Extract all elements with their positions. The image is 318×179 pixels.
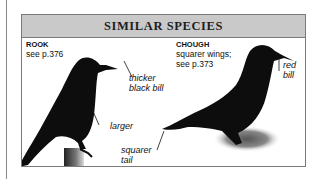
rook-page-reference: see p.376 [26,49,63,59]
chough-page-reference: see p.373 [176,59,213,69]
rook-label-squarer: squarer [121,145,152,155]
chough-description: squarer wings; [176,49,231,59]
species-name-rook: ROOK [26,40,49,49]
chough-label-bill: bill [283,70,294,80]
page-margin-rule [6,0,7,179]
species-name-chough: CHOUGH [176,40,209,49]
rook-label-black-bill: black bill [129,83,164,93]
similar-species-panel: SIMILAR SPECIES ROOK [21,14,306,167]
perch-post [64,148,84,167]
rook-label-larger: larger [110,121,133,131]
rook-label-thicker: thicker [129,73,156,83]
chough-label-red: red [283,60,296,70]
rook-label-tail: tail [121,155,133,165]
bird-illustrations [22,15,306,167]
